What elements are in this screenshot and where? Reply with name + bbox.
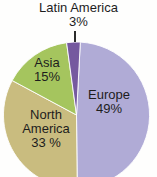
latin-america-callout-label: Latin America 3% bbox=[0, 1, 157, 29]
north-america-slice-label: North America 33 % bbox=[16, 108, 76, 150]
pie-chart: Europe 49% North America 33 % Asia 15% L… bbox=[0, 0, 157, 177]
asia-slice-label: Asia 15% bbox=[17, 56, 77, 84]
europe-slice-label: Europe 49% bbox=[79, 88, 139, 116]
latin-america-leader-line bbox=[74, 31, 76, 42]
